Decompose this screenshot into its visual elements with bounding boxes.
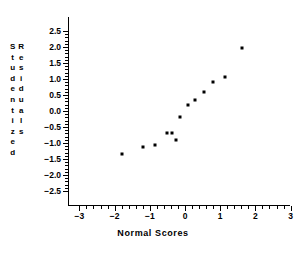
x-minor-tick: [234, 206, 235, 209]
y-minor-tick: [65, 178, 68, 179]
y-tick-mark: [63, 127, 68, 128]
y-minor-tick: [65, 185, 68, 186]
data-point: [174, 139, 177, 142]
y-minor-tick: [65, 37, 68, 38]
y-minor-tick: [65, 89, 68, 90]
data-point: [212, 80, 215, 83]
y-axis-label-column-2: Residuals: [18, 42, 24, 159]
y-axis-label-letter: e: [10, 84, 14, 95]
y-axis-label-column-1: Studentized: [10, 42, 15, 159]
y-axis-label-letter: z: [11, 127, 15, 138]
y-axis-label-letter: n: [10, 95, 15, 106]
y-minor-tick: [65, 98, 68, 99]
y-tick-label: −2.0: [44, 170, 61, 180]
x-minor-tick: [213, 206, 214, 209]
data-point: [203, 90, 206, 93]
y-minor-tick: [65, 108, 68, 109]
y-minor-tick: [65, 124, 68, 125]
y-tick-mark: [63, 31, 68, 32]
y-minor-tick: [65, 181, 68, 182]
y-tick-mark: [63, 79, 68, 80]
x-tick-label: −2: [110, 211, 120, 221]
x-minor-tick: [93, 206, 94, 209]
y-axis-label-letter: u: [19, 95, 24, 106]
y-tick-mark: [63, 63, 68, 64]
normal-probability-plot: Studentized Residuals 2.52.01.51.00.50.0…: [0, 0, 306, 256]
y-tick-label: 2.0: [49, 42, 61, 52]
x-minor-tick: [122, 206, 123, 209]
y-minor-tick: [65, 101, 68, 102]
y-minor-tick: [65, 73, 68, 74]
y-minor-tick: [65, 114, 68, 115]
y-minor-tick: [65, 149, 68, 150]
data-point: [241, 46, 244, 49]
y-minor-tick: [65, 130, 68, 131]
x-tick-label: −3: [75, 211, 85, 221]
y-minor-tick: [65, 162, 68, 163]
y-minor-tick: [65, 66, 68, 67]
x-tick-label: −1: [145, 211, 155, 221]
x-minor-tick: [199, 206, 200, 209]
y-minor-tick: [65, 50, 68, 51]
x-tick-label: 3: [288, 211, 293, 221]
y-minor-tick: [65, 172, 68, 173]
y-minor-tick: [65, 82, 68, 83]
y-axis-label-letter: i: [20, 74, 22, 85]
x-minor-tick: [86, 206, 87, 209]
y-axis-label-letter: t: [11, 53, 14, 64]
y-axis-label-letter: e: [19, 53, 23, 64]
y-minor-tick: [65, 60, 68, 61]
x-tick-label: 2: [253, 211, 258, 221]
data-point: [142, 146, 145, 149]
x-minor-tick: [164, 206, 165, 209]
y-axis-label-letter: s: [19, 63, 23, 74]
x-minor-tick: [269, 206, 270, 209]
x-minor-tick: [262, 206, 263, 209]
x-minor-tick: [206, 206, 207, 209]
x-minor-tick: [192, 206, 193, 209]
y-tick-mark: [63, 111, 68, 112]
y-minor-tick: [65, 169, 68, 170]
x-minor-tick: [277, 206, 278, 209]
y-minor-tick: [65, 85, 68, 86]
x-minor-tick: [248, 206, 249, 209]
y-minor-tick: [65, 41, 68, 42]
y-tick-label: −0.5: [44, 122, 61, 132]
x-minor-tick: [284, 206, 285, 209]
y-axis-label-letter: e: [10, 137, 14, 148]
x-minor-tick: [129, 206, 130, 209]
y-minor-tick: [65, 92, 68, 93]
y-minor-tick: [65, 165, 68, 166]
y-minor-tick: [65, 44, 68, 45]
data-point: [170, 131, 173, 134]
y-tick-label: 1.0: [49, 74, 61, 84]
data-point: [166, 132, 169, 135]
x-minor-tick: [136, 206, 137, 209]
y-tick-label: −1.5: [44, 154, 61, 164]
y-minor-tick: [65, 133, 68, 134]
y-tick-mark: [63, 95, 68, 96]
y-minor-tick: [65, 153, 68, 154]
y-minor-tick: [65, 188, 68, 189]
data-point: [154, 143, 157, 146]
x-minor-tick: [241, 206, 242, 209]
y-minor-tick: [65, 57, 68, 58]
y-tick-label: 2.5: [49, 26, 61, 36]
y-tick-label: −1.0: [44, 138, 61, 148]
x-tick-label: 1: [218, 211, 223, 221]
y-tick-label: 1.5: [49, 58, 61, 68]
y-minor-tick: [65, 121, 68, 122]
y-minor-tick: [65, 140, 68, 141]
y-tick-label: 0.0: [49, 106, 61, 116]
y-tick-mark: [63, 47, 68, 48]
y-minor-tick: [65, 137, 68, 138]
y-axis-label-letter: R: [18, 42, 24, 53]
y-minor-tick: [65, 53, 68, 54]
y-axis-label-letter: l: [20, 116, 22, 127]
x-minor-tick: [178, 206, 179, 209]
y-axis-label-letter: t: [11, 106, 14, 117]
y-axis-label: Studentized Residuals: [10, 42, 24, 159]
data-point: [120, 152, 123, 155]
y-tick-label: −2.5: [44, 186, 61, 196]
y-axis-label-letter: d: [10, 74, 15, 85]
